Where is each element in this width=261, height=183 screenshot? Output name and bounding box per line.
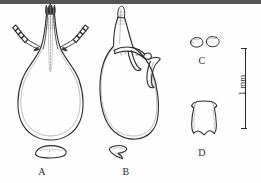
figure-linework: [0, 0, 261, 183]
figure-plate: A B C D 1 mm: [0, 0, 261, 183]
panel-label-d: D: [194, 148, 210, 158]
panel-label-c: C: [194, 56, 210, 66]
panel-c-drawing: [191, 37, 220, 48]
scale-bar-label: 1 mm: [237, 65, 247, 105]
top-edge-band: [0, 0, 261, 4]
panel-b-drawing: [100, 6, 160, 159]
panel-label-b: B: [118, 167, 134, 177]
panel-a-drawing: [13, 4, 89, 158]
panel-label-a: A: [34, 167, 50, 177]
panel-d-drawing: [192, 101, 217, 135]
